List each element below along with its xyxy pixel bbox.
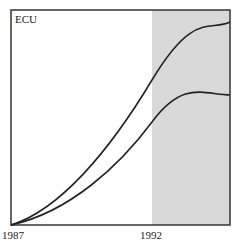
y-axis-label: ECU xyxy=(15,13,37,25)
shaded-region xyxy=(152,10,230,225)
x-tick-1992: 1992 xyxy=(140,229,162,241)
x-tick-1987: 1987 xyxy=(2,229,24,241)
chart: ECU 1987 1992 xyxy=(0,0,242,249)
chart-canvas xyxy=(0,0,242,249)
